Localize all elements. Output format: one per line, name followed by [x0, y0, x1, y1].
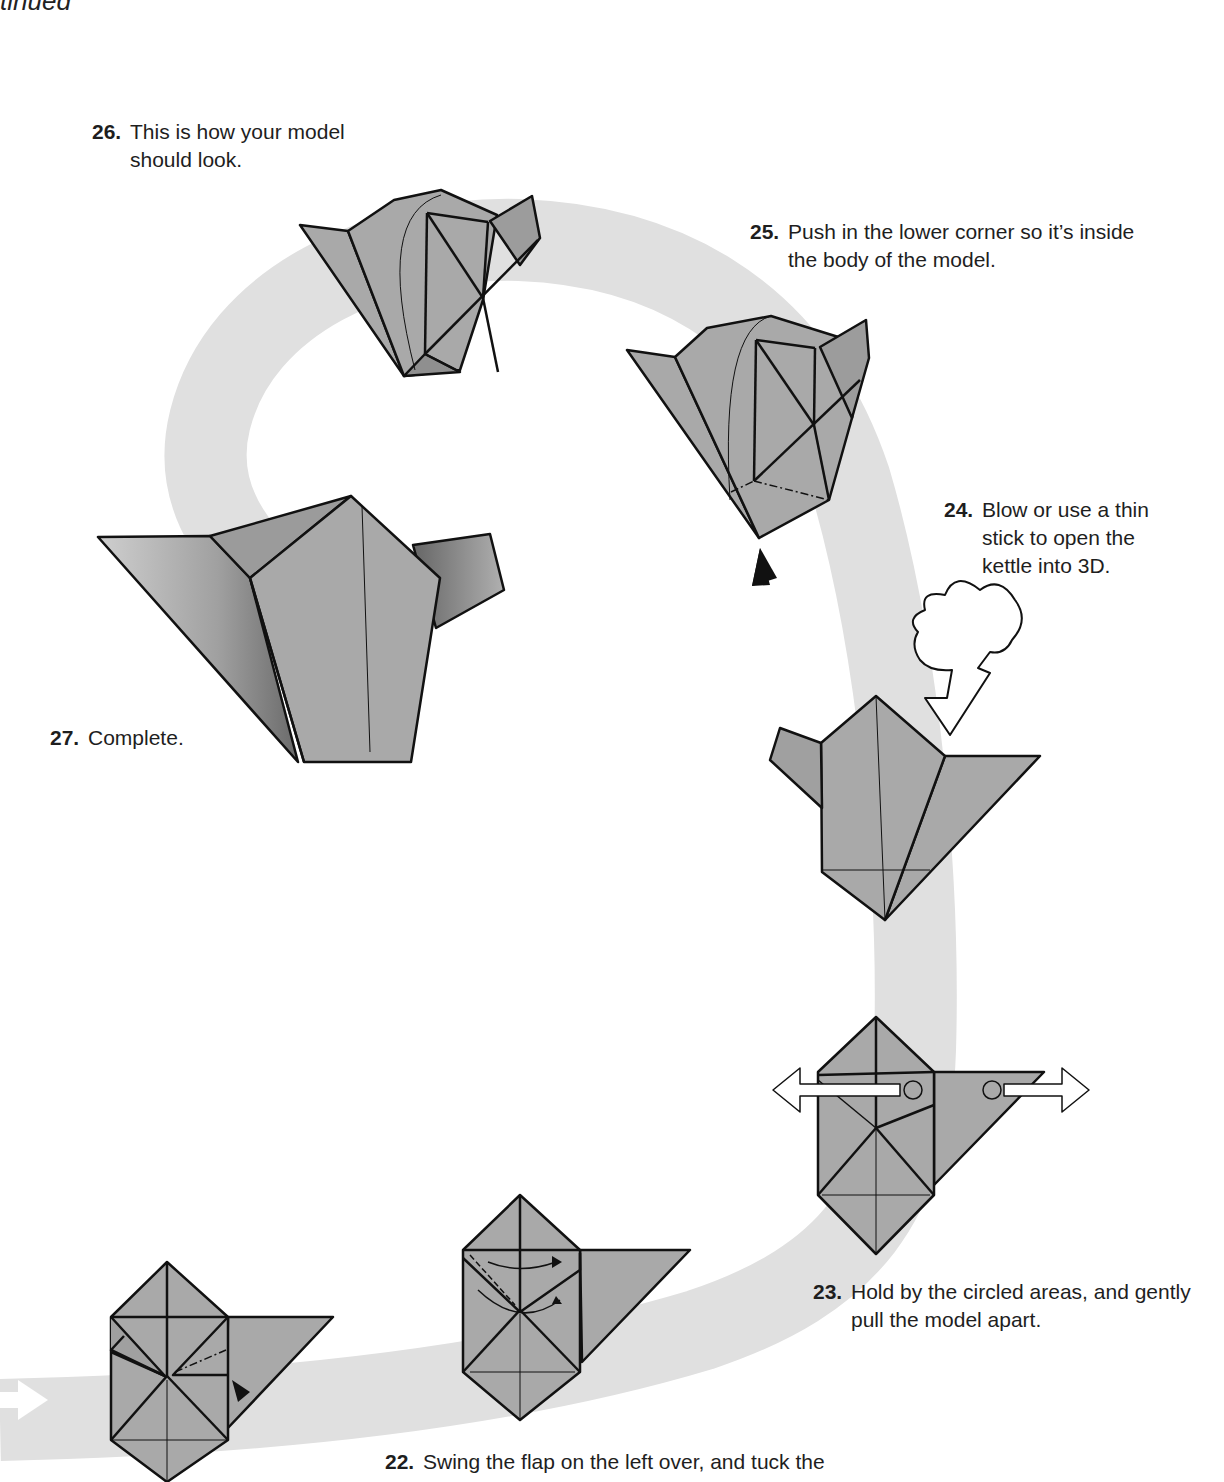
step-number: 26.: [92, 118, 126, 146]
step-text: Blow or use a thin stick to open the ket…: [944, 496, 1182, 580]
step-number: 22.: [385, 1448, 419, 1476]
step-25-caption: 25. Push in the lower corner so it’s ins…: [750, 218, 1170, 274]
step-27-caption: 27. Complete.: [50, 724, 270, 752]
step-number: 25.: [750, 218, 784, 246]
step-text: Push in the lower corner so it’s inside …: [750, 218, 1148, 274]
step-24-caption: 24. Blow or use a thin stick to open the…: [944, 496, 1204, 580]
step-22-caption: 22. Swing the flap on the left over, and…: [385, 1448, 985, 1476]
step-number: 24.: [944, 496, 978, 524]
step-text: Hold by the circled areas, and gently pu…: [813, 1278, 1191, 1334]
step-26-caption: 26. This is how your model should look.: [92, 118, 392, 174]
model-step-27-complete: [98, 496, 504, 762]
step-number: 27.: [50, 724, 84, 752]
step-text: Swing the flap on the left over, and tuc…: [385, 1448, 983, 1476]
step-23-caption: 23. Hold by the circled areas, and gentl…: [813, 1278, 1213, 1334]
step-text: This is how your model should look.: [92, 118, 360, 174]
step-number: 23.: [813, 1278, 847, 1306]
